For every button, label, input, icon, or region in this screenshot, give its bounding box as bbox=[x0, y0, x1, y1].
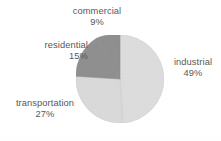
pie-label-commercial: commercial 9% bbox=[60, 6, 134, 29]
pie-label-transportation-value: 27% bbox=[2, 109, 88, 120]
pie-slice-industrial bbox=[120, 35, 164, 123]
pie-label-industrial-value: 49% bbox=[166, 68, 220, 79]
pie-label-residential-name: residential bbox=[14, 40, 88, 51]
pie-label-industrial-name: industrial bbox=[166, 57, 220, 68]
pie-label-residential: residential 15% bbox=[14, 40, 88, 63]
pie-graphic bbox=[76, 35, 164, 123]
pie-label-commercial-value: 9% bbox=[60, 17, 134, 28]
pie-label-commercial-name: commercial bbox=[60, 6, 134, 17]
pie-label-industrial: industrial 49% bbox=[166, 57, 220, 80]
pie-svg bbox=[76, 35, 164, 123]
pie-label-transportation: transportation 27% bbox=[2, 98, 88, 121]
pie-label-transportation-name: transportation bbox=[2, 98, 88, 109]
pie-label-residential-value: 15% bbox=[14, 51, 88, 62]
pie-chart-figure: commercial 9% residential 15% transporta… bbox=[0, 0, 221, 141]
